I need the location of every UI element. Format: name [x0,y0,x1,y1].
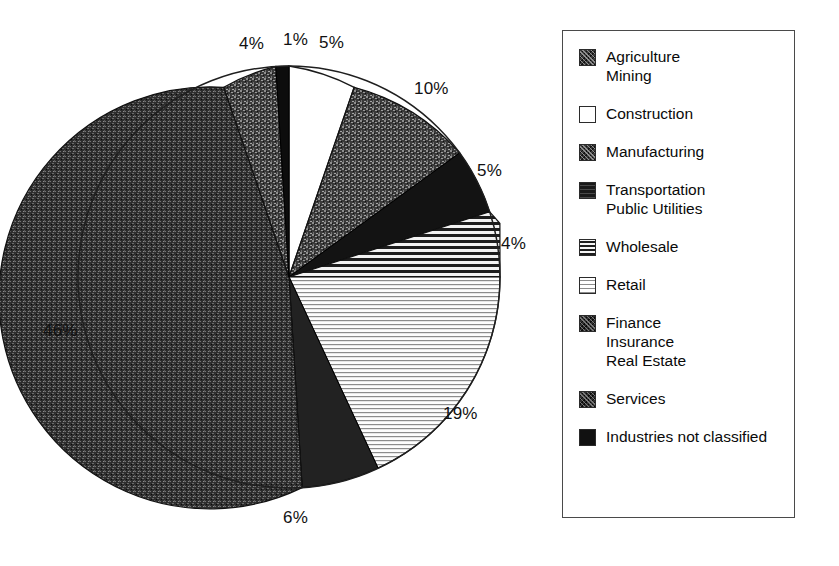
pie-label-finance: 6% [283,508,308,528]
legend-label-wholesale: Wholesale [606,237,678,256]
chart-page: 4% 1% 5% 10% 5% 4% 19% 6% 46% Agricultur… [0,0,839,566]
pie-label-industries-not-classified: 1% [283,30,308,50]
legend-label-construction: Construction [606,104,693,123]
legend-swatch-wholesale [579,239,596,256]
pie-label-transportation: 5% [477,161,502,181]
legend-label-finance-insurance-real-estate: Finance Insurance Real Estate [606,313,686,370]
legend-swatch-construction [579,106,596,123]
pie-label-agriculture: 4% [239,34,264,54]
legend-label-services: Services [606,389,665,408]
legend-label-retail: Retail [606,275,646,294]
legend-label-industries-not-classified: Industries not classified [606,427,767,446]
legend-swatch-industries-not-classified [579,429,596,446]
legend-swatch-services [579,391,596,408]
pie-label-retail: 19% [443,404,478,424]
legend-item-construction[interactable]: Construction [579,104,784,123]
legend-item-wholesale[interactable]: Wholesale [579,237,784,256]
pie-label-wholesale: 4% [501,234,526,254]
legend-swatch-retail [579,277,596,294]
pie-chart-area: 4% 1% 5% 10% 5% 4% 19% 6% 46% [0,0,560,566]
legend-item-transportation-public-utilities[interactable]: Transportation Public Utilities [579,180,784,218]
chart-legend: Agriculture Mining Construction Manufact… [562,30,795,518]
legend-item-manufacturing[interactable]: Manufacturing [579,142,784,161]
legend-item-retail[interactable]: Retail [579,275,784,294]
legend-label-transportation-public-utilities: Transportation Public Utilities [606,180,705,218]
pie-chart-svg [0,0,560,566]
legend-swatch-transportation-public-utilities [579,182,596,199]
legend-swatch-manufacturing [579,144,596,161]
pie-label-manufacturing: 10% [414,79,449,99]
legend-swatch-finance-insurance-real-estate [579,315,596,332]
pie-label-construction: 5% [319,33,344,53]
legend-label-agriculture-mining: Agriculture Mining [606,47,680,85]
legend-item-industries-not-classified[interactable]: Industries not classified [579,427,784,446]
legend-label-manufacturing: Manufacturing [606,142,704,161]
pie-label-services: 46% [43,321,78,341]
legend-swatch-agriculture-mining [579,49,596,66]
legend-item-finance-insurance-real-estate[interactable]: Finance Insurance Real Estate [579,313,784,370]
legend-item-agriculture-mining[interactable]: Agriculture Mining [579,47,784,85]
legend-item-services[interactable]: Services [579,389,784,408]
